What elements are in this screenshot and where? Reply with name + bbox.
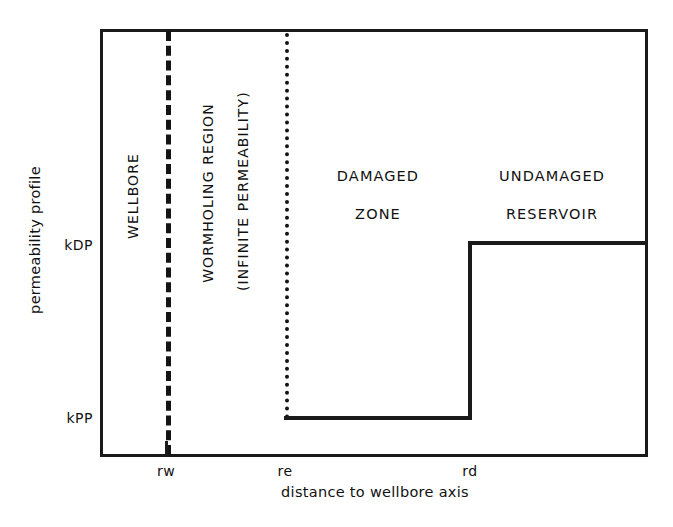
wellbore-wall-dashed-line: [166, 31, 171, 455]
annotation-wormholing-region: WORMHOLING REGION: [200, 95, 216, 291]
x-tick-rw: [165, 441, 168, 457]
y-tick-label-kdp: kDP: [38, 237, 93, 253]
curve-segment-kdp-plateau: [468, 241, 648, 245]
annotation-reservoir: RESERVOIR: [478, 206, 626, 222]
curve-segment-kpp-plateau: [284, 416, 472, 420]
annotation-damaged: DAMAGED: [308, 168, 448, 184]
x-tick-label-rd: rd: [445, 463, 495, 479]
wormhole-front-dotted-line: [285, 33, 289, 419]
annotation-zone: ZONE: [308, 206, 448, 222]
curve-segment-step-rise: [468, 241, 472, 420]
annotation-wellbore: WELLBORE: [125, 120, 141, 272]
annotation-undamaged: UNDAMAGED: [478, 168, 626, 184]
y-axis-title: permeability profile: [27, 145, 43, 335]
x-tick-label-re: re: [260, 463, 310, 479]
y-tick-label-kpp: kPP: [38, 410, 93, 426]
permeability-profile-diagram: rw re rd distance to wellbore axis kDP k…: [0, 0, 673, 527]
x-axis-title: distance to wellbore axis: [195, 484, 555, 500]
x-tick-label-rw: rw: [141, 463, 191, 479]
annotation-infinite-permeability: (INFINITE PERMEABILITY): [235, 95, 251, 291]
